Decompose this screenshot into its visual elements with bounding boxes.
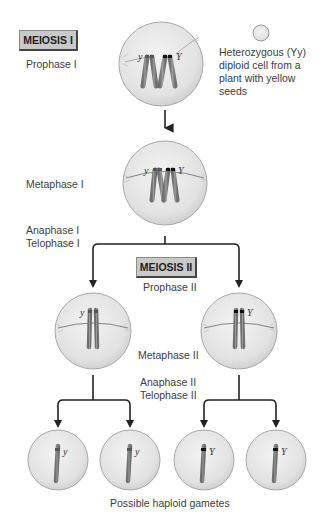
metaphase2-cell-right: Y: [201, 293, 277, 369]
telophase1-label: Telophase I: [26, 237, 80, 250]
allele-y: y: [137, 51, 143, 62]
allele-y: y: [62, 446, 68, 457]
anaphase1-label: Anaphase I: [26, 224, 79, 237]
legend-line-3: plant with yellow: [219, 72, 295, 85]
meiosis2-title: MEIOSIS II: [136, 257, 197, 278]
gamete-4: Y: [246, 430, 306, 490]
legend-line-1: Heterozygous (Yy): [219, 46, 306, 59]
telophase2-label: Telophase II: [140, 389, 197, 402]
allele-y: y: [79, 307, 85, 318]
allele-y: y: [134, 446, 140, 457]
branch-connector-right: [204, 375, 276, 422]
anaphase2-label: Anaphase II: [140, 376, 196, 389]
legend-cell-icon: [253, 25, 269, 41]
metaphase1-label: Metaphase I: [26, 178, 84, 191]
gamete-1: y: [28, 430, 88, 490]
branch-connector-left: [58, 375, 130, 422]
gamete-3: Y: [174, 430, 234, 490]
gamete-2: y: [100, 430, 160, 490]
meiosis1-title: MEIOSIS I: [19, 30, 78, 51]
gametes-caption: Possible haploid gametes: [110, 497, 230, 510]
metaphase2-label: Metaphase II: [138, 349, 199, 362]
metaphase2-cell-left: y: [55, 293, 131, 369]
prophase1-label: Prophase I: [26, 58, 77, 71]
legend-line-4: seeds: [219, 85, 247, 98]
allele-y: y: [143, 165, 149, 176]
legend-line-2: diploid cell from a: [219, 59, 301, 72]
arrowheads-2: [54, 420, 280, 428]
prophase2-label: Prophase II: [143, 281, 197, 294]
metaphase1-cell: y Y: [123, 141, 207, 225]
prophase1-cell: y Y: [119, 22, 203, 106]
